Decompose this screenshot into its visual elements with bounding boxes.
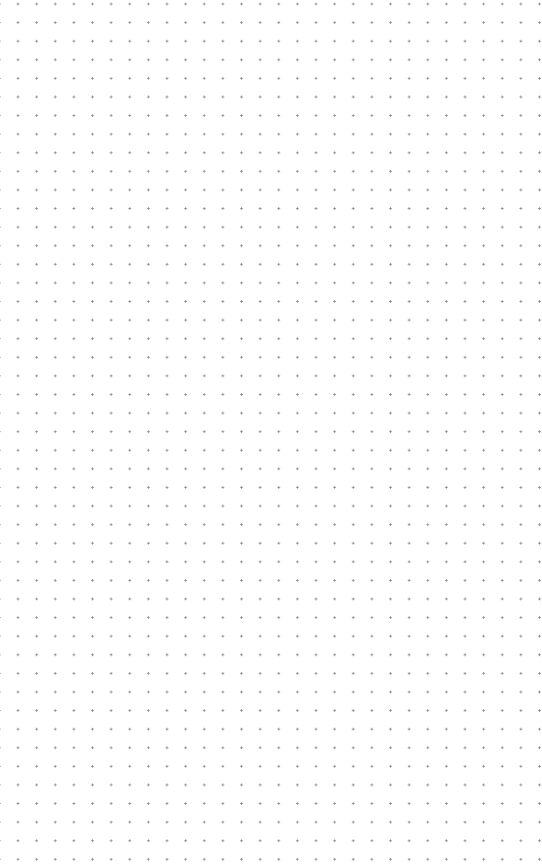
dot-grid-canvas[interactable]: [0, 0, 542, 864]
